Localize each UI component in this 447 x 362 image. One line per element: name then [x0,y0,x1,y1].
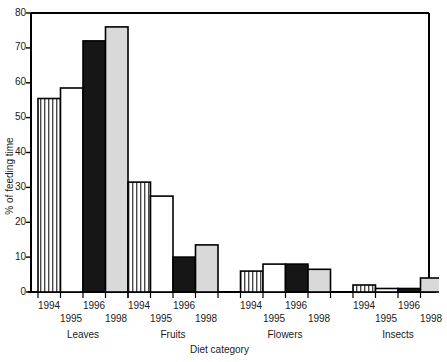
x-tick-label: 1995 [257,314,291,324]
x-tick-label: 1994 [234,301,268,311]
x-tick-label: 1994 [122,301,156,311]
bar-fruits-1995 [151,196,174,292]
bar-fruits-1994 [128,182,151,292]
bar-flowers-1994 [241,271,264,292]
bar-flowers-1996 [286,264,309,292]
bar-group-fruits [128,182,218,292]
bar-flowers-1995 [263,264,286,292]
group-label-leaves: Leaves [38,329,128,340]
bar-leaves-1998 [106,27,129,292]
bar-group-flowers [241,264,331,292]
group-label-insects: Insects [353,329,443,340]
bar-leaves-1995 [61,88,84,292]
x-tick-label: 1996 [392,301,426,311]
bar-leaves-1996 [83,41,106,292]
x-tick-label: 1995 [369,314,403,324]
x-tick-label: 1995 [144,314,178,324]
x-tick-label: 1996 [77,301,111,311]
x-tick-label: 1996 [167,301,201,311]
x-tick-label: 1998 [302,314,336,324]
bar-fruits-1996 [173,257,196,292]
x-tick-label: 1998 [414,314,447,324]
x-tick-label: 1994 [32,301,66,311]
bar-insects-1995 [376,289,399,293]
x-tick-label: 1998 [99,314,133,324]
group-label-flowers: Flowers [240,329,330,340]
bar-group-insects [353,278,439,292]
bar-insects-1996 [398,289,421,293]
bar-insects-1994 [353,285,376,292]
bar-flowers-1998 [308,269,331,292]
x-tick-label: 1995 [54,314,88,324]
x-tick-label: 1994 [347,301,381,311]
bar-leaves-1994 [38,99,61,293]
x-tick-label: 1996 [279,301,313,311]
bar-group-leaves [38,27,128,292]
x-axis-title: Diet category [0,344,439,355]
bar-insects-1998 [421,278,440,292]
group-label-fruits: Fruits [128,329,218,340]
bar-fruits-1998 [196,245,219,292]
x-tick-label: 1998 [189,314,223,324]
